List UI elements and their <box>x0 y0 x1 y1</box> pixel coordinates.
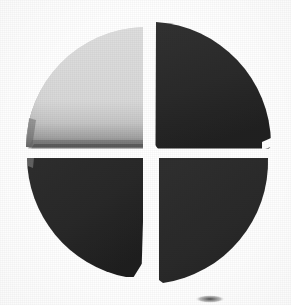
pie-chart-svg <box>0 0 291 305</box>
separator-horizontal <box>18 149 274 159</box>
partial-ellipse-artifact <box>195 295 225 303</box>
pie-slice-top-left-edge-dark <box>31 144 143 149</box>
quadrant-pie-figure <box>0 0 291 305</box>
canvas: Four-quadrant segmented circle mark <box>0 0 291 305</box>
separator-vertical-top <box>144 18 156 154</box>
